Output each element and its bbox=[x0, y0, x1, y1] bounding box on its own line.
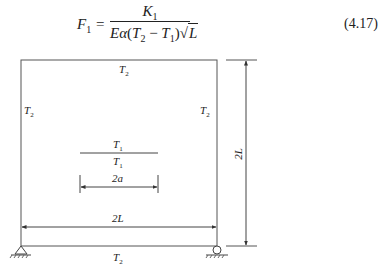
top-edge-temp-label: T2 bbox=[119, 63, 129, 78]
left-edge-temp-label: T2 bbox=[24, 104, 34, 119]
crack-top-temp-label: T1 bbox=[113, 138, 123, 153]
right-edge-temp-label: T2 bbox=[200, 104, 210, 119]
plate-diagram bbox=[0, 0, 386, 272]
pin-support-icon bbox=[10, 246, 31, 258]
width-label: 2L bbox=[112, 212, 124, 224]
crack-bottom-temp-label: T1 bbox=[113, 155, 123, 170]
crack-length-label: 2a bbox=[112, 172, 123, 184]
roller-support-icon bbox=[206, 246, 228, 258]
height-label: 2L bbox=[232, 148, 244, 160]
bottom-edge-temp-label: T2 bbox=[113, 251, 123, 266]
